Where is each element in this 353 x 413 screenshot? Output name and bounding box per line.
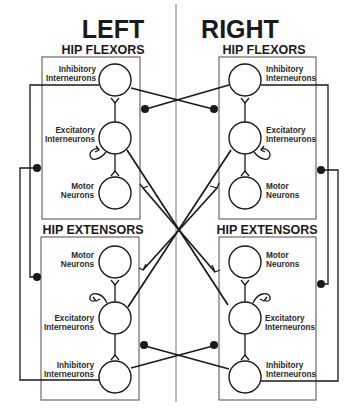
- excitatory-synapse-icon: [111, 355, 119, 360]
- excitatory-synapse-icon: [140, 184, 148, 188]
- left-title: LEFT: [82, 15, 145, 43]
- excitatory-synapse-icon: [241, 171, 249, 176]
- svg-text:Neurons: Neurons: [61, 191, 95, 200]
- svg-text:Neurons: Neurons: [266, 191, 300, 200]
- excitatory-synapse-icon: [241, 355, 249, 360]
- svg-text:Motor: Motor: [71, 182, 95, 191]
- svg-text:Neurons: Neurons: [61, 260, 95, 269]
- inhibitory-synapse-icon: [141, 105, 149, 113]
- svg-text:Interneurons: Interneurons: [266, 370, 316, 379]
- right-extensors-label: HIP EXTENSORS: [216, 223, 317, 237]
- left-extensor-inhibitory-neuron: Inhibitory Interneurons: [44, 361, 131, 393]
- svg-text:Neurons: Neurons: [266, 260, 300, 269]
- left-extensor-motor-neuron: Motor Neurons: [61, 246, 131, 278]
- svg-text:Excitatory: Excitatory: [265, 314, 305, 323]
- right-title: RIGHT: [201, 15, 279, 43]
- svg-text:Interneurons: Interneurons: [266, 135, 316, 144]
- svg-text:Excitatory: Excitatory: [55, 126, 95, 135]
- inhibitory-synapse-icon: [317, 166, 325, 174]
- left-extensors-label: HIP EXTENSORS: [42, 223, 143, 237]
- right-flexors-label: HIP FLEXORS: [222, 43, 305, 57]
- excitatory-synapse-icon: [241, 98, 249, 103]
- svg-text:Interneurons: Interneurons: [266, 74, 316, 83]
- inhibitory-synapse-icon: [33, 273, 41, 281]
- left-flexor-inhibitory-neuron: Inhibitory Interneurons: [46, 64, 131, 96]
- right-extensor-motor-neuron: Motor Neurons: [229, 246, 300, 278]
- inhibitory-synapse-icon: [317, 280, 325, 288]
- svg-text:Motor: Motor: [266, 182, 290, 191]
- inhibitory-synapse-icon: [210, 105, 218, 113]
- svg-text:Inhibitory: Inhibitory: [57, 361, 95, 370]
- excitatory-synapse-icon: [241, 280, 249, 285]
- svg-text:Interneurons: Interneurons: [45, 135, 95, 144]
- right-extensor-inhibitory-neuron: Inhibitory Interneurons: [229, 361, 316, 393]
- right-flexor-motor-neuron: Motor Neurons: [229, 177, 300, 209]
- right-extensor-excitatory-neuron: Excitatory Interneurons: [229, 302, 315, 334]
- svg-text:Interneurons: Interneurons: [265, 323, 315, 332]
- svg-text:Inhibitory: Inhibitory: [59, 65, 97, 74]
- inhibitory-synapse-icon: [33, 164, 41, 172]
- half-center-hip-circuit-diagram: LEFT RIGHT HIP FLEXORS HIP FLEXORS HIP E…: [0, 0, 353, 413]
- excitatory-synapse-icon: [111, 171, 119, 176]
- svg-text:Inhibitory: Inhibitory: [266, 65, 304, 74]
- svg-text:Motor: Motor: [71, 251, 95, 260]
- left-ext-inh-to-right-cross: [131, 346, 213, 368]
- left-extensor-excitatory-neuron: Excitatory Interneurons: [44, 302, 131, 334]
- excitatory-synapse-icon: [210, 183, 219, 188]
- svg-text:Interneurons: Interneurons: [44, 370, 94, 379]
- svg-text:Interneurons: Interneurons: [44, 323, 94, 332]
- right-flex-inh-to-left-cross: [146, 85, 229, 109]
- excitatory-synapse-icon: [111, 98, 119, 103]
- right-ext-inh-to-left-cross: [145, 346, 229, 369]
- right-flexor-inhibitory-neuron: Inhibitory Interneurons: [229, 64, 316, 96]
- right-flexor-excitatory-neuron: Excitatory Interneurons: [229, 122, 316, 154]
- left-ext-exc-self-loop: [90, 294, 107, 303]
- svg-text:Inhibitory: Inhibitory: [266, 361, 304, 370]
- inhibitory-synapse-icon: [140, 341, 148, 349]
- svg-text:Excitatory: Excitatory: [266, 126, 306, 135]
- excitatory-synapse-icon: [111, 280, 119, 285]
- svg-text:Excitatory: Excitatory: [54, 314, 94, 323]
- left-flex-inh-to-ext-wire: [30, 85, 99, 277]
- left-flexor-excitatory-neuron: Excitatory Interneurons: [45, 122, 131, 154]
- svg-text:Motor: Motor: [266, 251, 290, 260]
- inhibitory-synapse-icon: [210, 341, 218, 349]
- svg-text:Interneurons: Interneurons: [46, 74, 96, 83]
- left-flexor-motor-neuron: Motor Neurons: [61, 177, 131, 209]
- left-flexors-label: HIP FLEXORS: [61, 43, 144, 57]
- right-ext-inh-to-flex-wire: [261, 170, 338, 381]
- right-ext-exc-self-loop: [253, 294, 270, 303]
